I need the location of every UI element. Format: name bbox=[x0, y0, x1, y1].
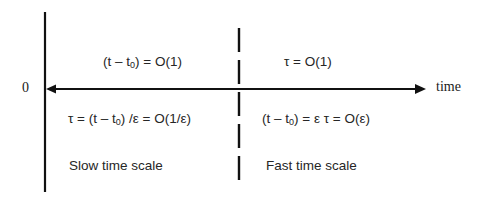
expr-part: ) = O(1) bbox=[135, 54, 182, 69]
slow-time-scale-caption: Slow time scale bbox=[69, 158, 163, 174]
left-bottom-expression: τ = (t – t0) /ε = O(1/ε) bbox=[68, 111, 191, 127]
expr-part: (t – t bbox=[262, 111, 289, 126]
time-axis-label: time bbox=[436, 79, 461, 95]
right-bottom-expression: (t – t0) = ε τ = O(ε) bbox=[262, 111, 370, 127]
expr-part: ) /ε = O(1/ε) bbox=[121, 111, 191, 126]
left-top-expression: (t – t0) = O(1) bbox=[103, 54, 182, 70]
expr-part: ) = ε τ = O(ε) bbox=[294, 111, 370, 126]
left-arrowhead-icon bbox=[46, 85, 56, 94]
origin-label: 0 bbox=[22, 80, 29, 96]
expr-part: (t – t bbox=[103, 54, 130, 69]
time-scale-diagram: 0 time (t – t0) = O(1) τ = O(1) τ = (t –… bbox=[0, 0, 485, 204]
right-arrowhead-icon bbox=[415, 84, 426, 94]
right-top-expression: τ = O(1) bbox=[284, 54, 332, 70]
fast-time-scale-caption: Fast time scale bbox=[266, 158, 357, 174]
expr-part: τ = (t – t bbox=[68, 111, 116, 126]
